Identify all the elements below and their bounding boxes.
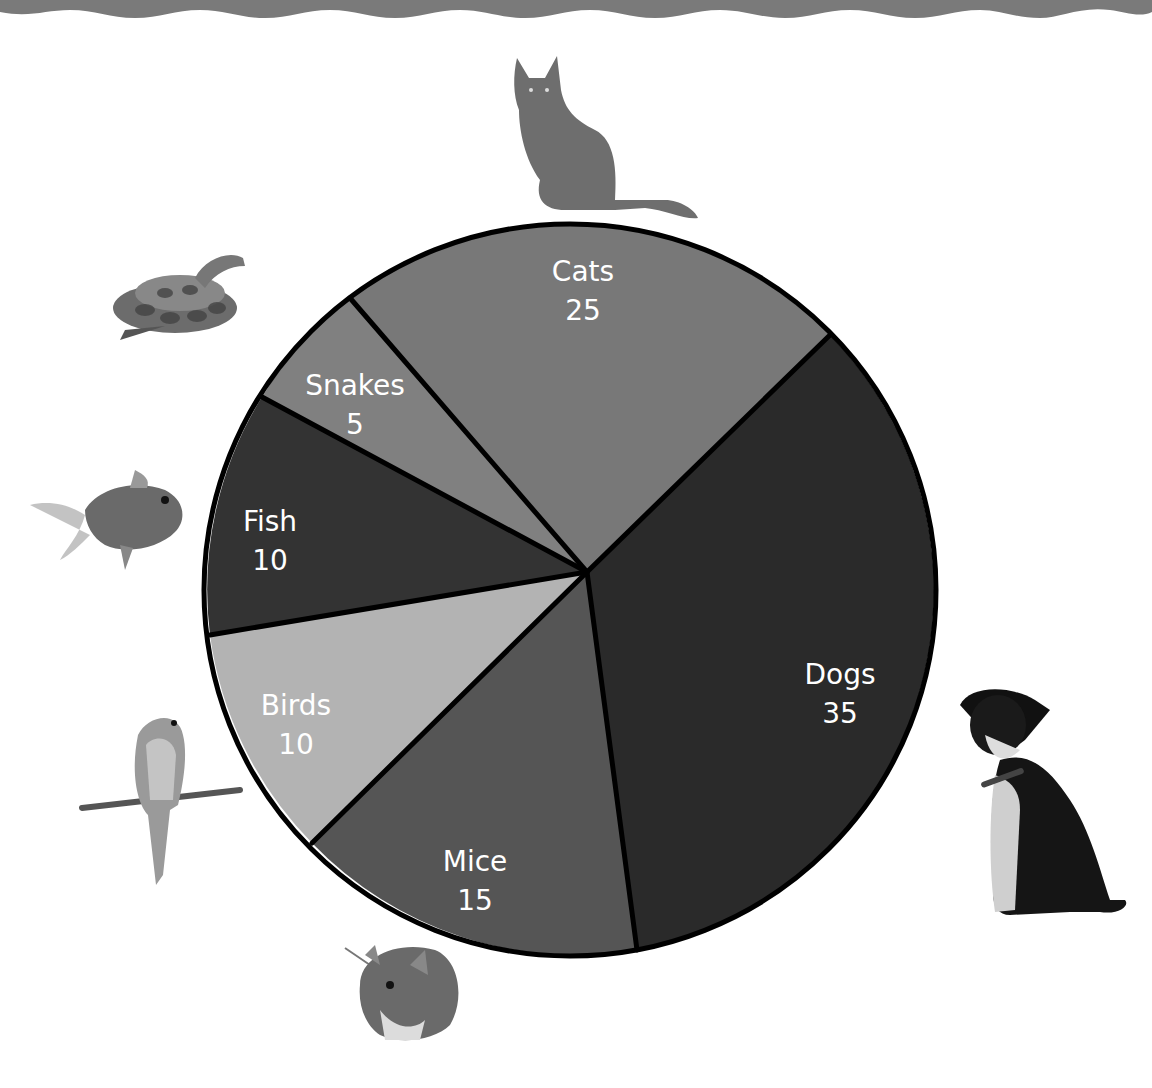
- value-fish: 10: [252, 544, 288, 577]
- value-birds: 10: [278, 728, 314, 761]
- value-cats: 25: [565, 294, 601, 327]
- value-dogs: 35: [822, 697, 858, 730]
- label-mice: Mice: [443, 845, 508, 878]
- label-snakes: Snakes: [305, 369, 405, 402]
- value-mice: 15: [457, 884, 493, 917]
- label-dogs: Dogs: [804, 658, 875, 691]
- label-birds: Birds: [261, 689, 331, 722]
- cat-photo: [505, 50, 705, 225]
- bird-photo: [78, 705, 243, 890]
- snake-photo: [105, 248, 255, 343]
- label-cats: Cats: [552, 255, 614, 288]
- dog-photo: [950, 680, 1135, 925]
- value-snakes: 5: [346, 408, 364, 441]
- fish-photo: [25, 460, 190, 580]
- label-fish: Fish: [243, 505, 297, 538]
- mouse-photo: [340, 940, 470, 1055]
